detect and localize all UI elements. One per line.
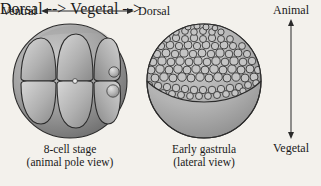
vegetal-label: Vegetal: [273, 142, 309, 154]
early-gastrula-panel: Early gastrula (lateral view): [140, 20, 268, 186]
early-gastrula-caption: Early gastrula (lateral view): [172, 143, 236, 169]
arrow-head-down-icon: [288, 132, 294, 139]
arrow-shaft: [291, 25, 292, 133]
early-gastrula-embryo-diagram: [143, 20, 265, 142]
animal-vegetal-axis: Animal Vegetal: [265, 4, 317, 154]
arrow-shaft: [47, 11, 128, 12]
animal-label: Animal: [273, 4, 309, 16]
vertical-double-arrow-icon: [286, 19, 296, 139]
embryo-development-figure: Dorsal --> Ventral Dorsal Vegetal --> An…: [0, 0, 321, 186]
small-blastomere: [109, 67, 119, 77]
dorsal-label: Dorsal: [138, 5, 170, 17]
eight-cell-caption: 8-cell stage (animal pole view): [27, 143, 114, 169]
eight-cell-embryo-diagram: [9, 20, 131, 142]
caption-line-2: (lateral view): [172, 156, 236, 169]
cleavage-center-point: [73, 79, 78, 84]
arrow-head-right-icon: [127, 8, 134, 14]
eight-cell-stage-panel: 8-cell stage (animal pole view): [6, 20, 134, 186]
caption-line-2: (animal pole view): [27, 156, 114, 169]
ventral-label: Ventral: [2, 5, 37, 17]
caption-line-1: 8-cell stage: [44, 143, 97, 155]
horizontal-double-arrow-icon: [41, 6, 134, 16]
caption-line-1: Early gastrula: [172, 143, 236, 155]
blastomere-row-lower: [21, 81, 120, 128]
small-blastomere: [107, 85, 119, 97]
ventral-dorsal-axis: Ventral Dorsal: [2, 2, 170, 20]
